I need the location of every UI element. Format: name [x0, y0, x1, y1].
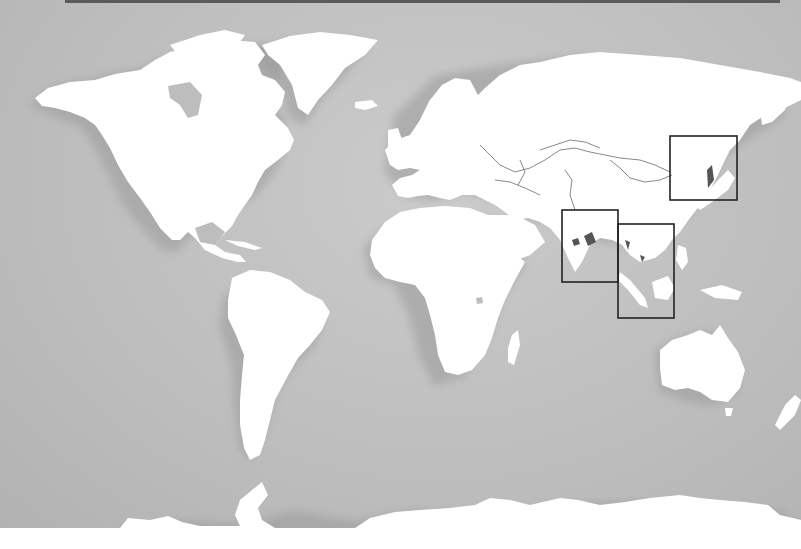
north-america: [35, 40, 294, 262]
bottom-strip: [0, 528, 801, 549]
philippines: [676, 245, 688, 270]
madagascar: [508, 330, 520, 365]
antarctica-east: [355, 495, 801, 528]
borneo: [652, 276, 675, 300]
cuba: [225, 240, 262, 250]
sumatra: [618, 272, 648, 308]
south-america: [228, 270, 330, 460]
lake-victoria: [476, 297, 483, 304]
new-zealand: [775, 395, 801, 430]
antarctica: [120, 482, 275, 528]
map-canvas: [0, 0, 801, 528]
world-map: [0, 0, 801, 528]
new-guinea: [700, 285, 742, 300]
iceland: [355, 100, 378, 110]
tasmania: [725, 408, 733, 416]
